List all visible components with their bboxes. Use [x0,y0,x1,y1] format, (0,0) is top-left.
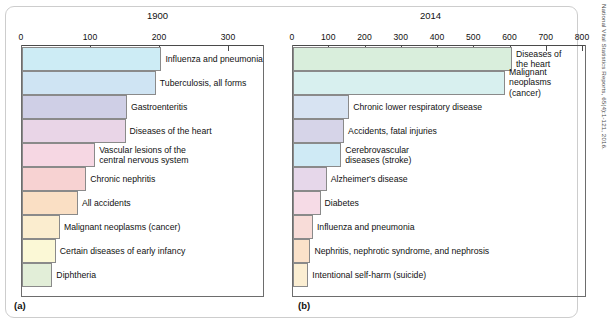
bar-row[interactable]: Influenza and pneumonia [22,47,263,71]
bar-row[interactable]: Alzheimer's disease [293,167,585,191]
bar-label: Chronic nephritis [90,174,155,184]
bar[interactable] [293,215,313,239]
bar[interactable] [22,239,56,263]
axis-tick-label: 700 [539,32,553,42]
bar-row[interactable]: Malignant neoplasms (cancer) [293,71,585,95]
axis-tick-label: 0 [19,32,24,42]
bar-label: Accidents, fatal injuries [348,126,437,136]
bar-row[interactable]: Tuberculosis, all forms [22,71,263,95]
panel-caption-a: (a) [14,300,26,311]
bar-label: Diseases of the heart [516,49,561,70]
bar[interactable] [293,143,341,167]
bar-row[interactable]: Chronic lower respiratory disease [293,95,585,119]
bar-row[interactable]: Intentional self-harm (suicide) [293,263,585,287]
bar-row[interactable]: Diseases of the heart [22,119,263,143]
bar-label: Diphtheria [56,270,96,280]
source-credit: National Vital Statistics Reports, 65(4)… [598,4,610,304]
axis-tick-label: 100 [83,32,97,42]
bar[interactable] [293,191,321,215]
axis-tick-label: 400 [430,32,444,42]
bar-label: Certain diseases of early infancy [60,246,186,256]
bar-label: Vascular lesions of the central nervous … [99,145,188,166]
bar-label: Malignant neoplasms (cancer) [64,222,180,232]
bar-label: Nephritis, nephrotic syndrome, and nephr… [314,246,489,256]
bars-1900: Influenza and pneumoniaTuberculosis, all… [22,45,263,297]
axis-tick-label: 600 [502,32,516,42]
bar[interactable] [293,95,349,119]
bar-row[interactable]: Cerebrovascular diseases (stroke) [293,143,585,167]
bar[interactable] [22,47,161,71]
bars-2014: Diseases of the heartMalignant neoplasms… [293,45,585,297]
bar[interactable] [293,263,308,287]
bar-label: Malignant neoplasms (cancer) [509,67,551,98]
bar-row[interactable]: Vascular lesions of the central nervous … [22,143,263,167]
bar-row[interactable]: Influenza and pneumonia [293,215,585,239]
bar-row[interactable]: Diabetes [293,191,585,215]
bar[interactable] [22,95,127,119]
bar-label: Cerebrovascular diseases (stroke) [345,145,411,166]
axis-tick-label: 300 [221,32,235,42]
panel-caption-b: (b) [298,300,310,311]
bar[interactable] [293,47,512,71]
axis-tick-label: 800 [575,32,589,42]
bar-row[interactable]: Diphtheria [22,263,263,287]
bar[interactable] [22,191,78,215]
bar-row[interactable]: Malignant neoplasms (cancer) [22,215,263,239]
bar[interactable] [293,119,344,143]
axis-tick-label: 200 [152,32,166,42]
bar-row[interactable]: Chronic nephritis [22,167,263,191]
bar-label: Diabetes [325,198,359,208]
bar-label: Influenza and pneumonia [165,54,263,64]
bar-label: Diseases of the heart [130,126,212,136]
bar[interactable] [22,215,60,239]
bar-label: Influenza and pneumonia [317,222,415,232]
bar[interactable] [22,263,52,287]
axis-tick-label: 300 [394,32,408,42]
bar-label: All accidents [82,198,131,208]
bar-label: Chronic lower respiratory disease [353,102,482,112]
bar[interactable] [22,167,86,191]
bar[interactable] [22,143,95,167]
axis-tick-label: 0 [290,32,295,42]
bar[interactable] [293,239,310,263]
axis-tick-label: 100 [321,32,335,42]
panel-title-2014: 2014 [420,10,441,21]
bar-row[interactable]: Nephritis, nephrotic syndrome, and nephr… [293,239,585,263]
bar-label: Tuberculosis, all forms [160,78,247,88]
bar-label: Intentional self-harm (suicide) [312,270,426,280]
bar-label: Alzheimer's disease [331,174,408,184]
bar[interactable] [293,71,505,95]
panel-title-1900: 1900 [147,10,168,21]
panel-2014: 2014 0100200300400500600700800 Diseases … [288,0,573,312]
bar-row[interactable]: Gastroenteritis [22,95,263,119]
bar[interactable] [293,167,327,191]
axis-tick-label: 200 [357,32,371,42]
bar[interactable] [22,71,156,95]
bar-row[interactable]: Accidents, fatal injuries [293,119,585,143]
bar-row[interactable]: Certain diseases of early infancy [22,239,263,263]
axis-tick-label: 500 [466,32,480,42]
bar-row[interactable]: All accidents [22,191,263,215]
panel-1900: 1900 0100200300 Influenza and pneumoniaT… [0,0,288,312]
bar-label: Gastroenteritis [131,102,188,112]
bar[interactable] [22,119,126,143]
